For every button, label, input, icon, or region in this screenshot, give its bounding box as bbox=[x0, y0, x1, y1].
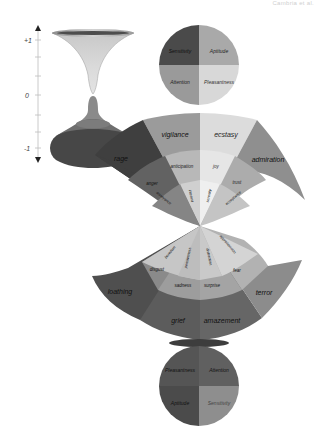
axis-up-arrow-icon bbox=[35, 25, 41, 31]
axis-label-minus-one: -1 bbox=[24, 145, 30, 152]
bottom-quadrant-aptitude bbox=[159, 386, 199, 426]
label-rage: rage bbox=[114, 155, 128, 163]
label-bottom-aptitude: Aptitude bbox=[170, 400, 190, 406]
label-bottom-sensitivity: Sensitivity bbox=[208, 400, 231, 406]
label-ecstasy: ecstasy bbox=[214, 131, 238, 139]
label-attention: Attention bbox=[169, 79, 190, 85]
label-loathing: loathing bbox=[108, 288, 133, 296]
axis-label-zero: 0 bbox=[25, 92, 29, 99]
hourglass-of-emotions-diagram: Cambria et al. bbox=[0, 0, 318, 447]
label-bottom-attention: Attention bbox=[208, 367, 229, 373]
axis-down-arrow-icon bbox=[35, 157, 41, 163]
label-anger: anger bbox=[146, 181, 158, 186]
label-sadness: sadness bbox=[175, 283, 193, 288]
upper-fan: rage vigilance ecstasy admiration anger … bbox=[95, 113, 305, 226]
label-fear: fear bbox=[233, 268, 241, 273]
label-sensitivity: Sensitivity bbox=[169, 48, 192, 54]
label-anticipation: anticipation bbox=[171, 164, 194, 169]
label-trust: trust bbox=[233, 180, 243, 185]
label-amazement: amazement bbox=[204, 317, 242, 324]
lower-fan: loathing grief amazement terror disgust … bbox=[92, 226, 302, 340]
top-quadrant-aptitude bbox=[199, 25, 239, 65]
top-quadrant-sensitivity bbox=[159, 25, 199, 65]
label-vigilance: vigilance bbox=[161, 131, 188, 139]
label-surprise: surprise bbox=[204, 283, 221, 288]
header-text: Cambria et al. bbox=[272, 0, 314, 6]
vertical-axis: +1 0 -1 bbox=[24, 25, 41, 163]
label-admiration: admiration bbox=[252, 156, 285, 163]
label-disgust: disgust bbox=[150, 267, 165, 272]
top-quadrant-pleasantness bbox=[199, 65, 239, 105]
bottom-circle: Pleasantness Attention Aptitude Sensitiv… bbox=[159, 339, 239, 426]
label-grief: grief bbox=[171, 317, 186, 325]
label-pleasantness: Pleasantness bbox=[204, 79, 235, 85]
axis-label-plus-one: +1 bbox=[24, 37, 32, 44]
label-terror: terror bbox=[256, 289, 273, 296]
bottom-quadrant-sensitivity bbox=[199, 386, 239, 426]
top-quadrant-attention bbox=[159, 65, 199, 105]
label-aptitude: Aptitude bbox=[209, 48, 229, 54]
bottom-quadrant-pleasantness bbox=[159, 346, 199, 386]
bottom-quadrant-attention bbox=[199, 346, 239, 386]
label-joy: joy bbox=[212, 164, 220, 169]
label-bottom-pleasantness: Pleasantness bbox=[165, 367, 196, 373]
top-circle: Sensitivity Aptitude Attention Pleasantn… bbox=[159, 25, 239, 105]
